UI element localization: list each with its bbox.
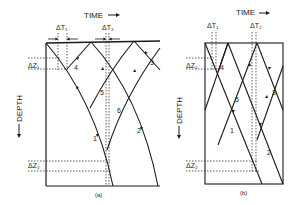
ray-path-4 [67, 42, 91, 69]
arrow-down-icon [268, 67, 271, 70]
ray-label-6: 6 [117, 107, 121, 114]
panel-a-caption: (a) [95, 192, 102, 198]
ray-path-2 [228, 43, 283, 184]
ray-label-3: 3 [272, 89, 276, 96]
time-axis-label: TIME [84, 11, 103, 20]
panel-b-frame [205, 43, 283, 184]
ray-path-1 [46, 43, 113, 186]
panel-b: TIME DEPTH ΔT₁ ΔT₂ ΔZ₁ ΔZ₂ [175, 8, 283, 196]
ray-label-1: 1 [93, 135, 97, 142]
ray-label-2: 2 [267, 149, 271, 156]
delta-t2-label: ΔT₂ [102, 24, 114, 31]
ray-path-2 [91, 42, 158, 186]
ray-label-4: 4 [220, 64, 224, 71]
arrow-up-icon [265, 95, 268, 98]
arrow-up-icon [101, 67, 104, 70]
ray-label-3: 3 [150, 59, 154, 66]
surface-line [46, 41, 160, 43]
depth-axis-label: DEPTH [175, 97, 184, 124]
ray-path-5 [218, 43, 257, 145]
ray-path-5 [90, 41, 134, 108]
delta-z2-label: ΔZ₂ [28, 162, 40, 169]
delta-z2-label: ΔZ₂ [186, 162, 198, 169]
delta-t1-label: ΔT₁ [56, 24, 68, 31]
arrow-down-icon [145, 51, 148, 54]
ray-label-2: 2 [137, 127, 141, 134]
delta-z1-label: ΔZ₁ [186, 62, 198, 69]
ray-path-1 [205, 43, 262, 184]
depth-axis-label: DEPTH [15, 95, 24, 122]
delta-t2-label: ΔT₂ [250, 22, 262, 29]
ray-label-1: 1 [230, 127, 234, 134]
ray-label-4: 4 [74, 64, 78, 71]
panel-a: TIME DEPTH ΔT₁ ΔT₂ ΔZ₁ ΔZ₂ [15, 11, 160, 198]
delta-t1-label: ΔT₁ [207, 22, 219, 29]
ray-label-5: 5 [235, 96, 239, 103]
arrow-up-icon [133, 69, 136, 72]
ray-path-4b [205, 43, 228, 110]
ray-label-5: 5 [100, 89, 104, 96]
delta-z1-label: ΔZ₁ [28, 62, 40, 69]
time-axis-label: TIME [236, 8, 255, 17]
ray-path-diagram: TIME DEPTH ΔT₁ ΔT₂ ΔZ₁ ΔZ₂ [0, 0, 298, 205]
panel-b-caption: (b) [240, 190, 247, 196]
